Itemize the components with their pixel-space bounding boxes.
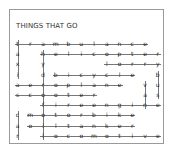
grid-letter: r [90, 91, 98, 99]
grid-letter: o [116, 60, 124, 68]
grid-letter: a [14, 81, 22, 89]
grid-letter: y [90, 71, 98, 79]
grid-letter: m [26, 111, 34, 119]
grid-letter: l [77, 81, 85, 89]
grid-letter: c [128, 40, 136, 48]
grid-letter: e [77, 91, 85, 99]
grid-letter: e [141, 40, 149, 48]
grid-letter: n [103, 81, 111, 89]
grid-letter: v [141, 132, 149, 140]
grid-letter: c [103, 71, 111, 79]
grid-letter: a [90, 81, 98, 89]
grid-letter: i [128, 101, 136, 109]
grid-letter: o [52, 132, 60, 140]
grid-letter: r [14, 132, 22, 140]
grid-letter: a [141, 91, 149, 99]
grid-letter: c [77, 71, 85, 79]
grid-letter: l [103, 60, 111, 68]
grid-letter: x [14, 60, 22, 68]
grid-letter: r [141, 60, 149, 68]
grid-letter: i [14, 71, 22, 79]
grid-letter: o [103, 132, 111, 140]
grid-letter: h [39, 50, 47, 58]
grid-letter: y [39, 60, 47, 68]
grid-letter: e [77, 101, 85, 109]
grid-letter: r [26, 40, 34, 48]
grid-letter: a [39, 40, 47, 48]
grid-letter: r [154, 50, 162, 58]
grid-letter: a [103, 40, 111, 48]
grid-letter: t [65, 91, 73, 99]
grid-letter: s [14, 91, 22, 99]
grid-letter: n [90, 122, 98, 130]
grid-letter: e [141, 50, 149, 58]
grid-letter: b [90, 111, 98, 119]
grid-letter: s [154, 91, 162, 99]
grid-letter: o [39, 91, 47, 99]
grid-letter: t [128, 50, 136, 58]
grid-letter: m [52, 40, 60, 48]
grid-letter: u [77, 40, 85, 48]
grid-letter: e [154, 101, 162, 109]
grid-letter: t [65, 122, 73, 130]
grid-letter: f [39, 101, 47, 109]
grid-letter: e [90, 101, 98, 109]
grid-letter: b [52, 71, 60, 79]
grid-letter: i [52, 101, 60, 109]
grid-letter: t [14, 40, 22, 48]
grid-letter: d [39, 71, 47, 79]
grid-letter: c [14, 111, 22, 119]
grid-letter: e [154, 132, 162, 140]
grid-letter: c [90, 50, 98, 58]
grid-letter: e [116, 81, 124, 89]
grid-letter: l [52, 122, 60, 130]
grid-letter: l [65, 50, 73, 58]
grid-letter: m [90, 132, 98, 140]
grid-letter: g [116, 101, 124, 109]
grid-letter: l [90, 40, 98, 48]
grid-letter: o [26, 122, 34, 130]
grid-letter: n [103, 101, 111, 109]
grid-letter: r [77, 111, 85, 119]
grid-letter: p [116, 50, 124, 58]
grid-letter: i [103, 111, 111, 119]
grid-letter: i [77, 50, 85, 58]
grid-letter: t [116, 132, 124, 140]
grid-letter: o [65, 111, 73, 119]
grid-letter: i [128, 132, 136, 140]
grid-letter: e [26, 81, 34, 89]
grid-letter: r [128, 60, 136, 68]
grid-letter: r [128, 122, 136, 130]
grid-letter: r [65, 101, 73, 109]
grid-letter: n [116, 40, 124, 48]
grid-letter: o [52, 91, 60, 99]
grid-letter: l [116, 71, 124, 79]
grid-letter: e [128, 71, 136, 79]
grid-letter: a [14, 122, 22, 130]
grid-letter: i [39, 122, 47, 130]
grid-letter: c [65, 132, 73, 140]
grid-letter: a [14, 50, 22, 58]
grid-letter: b [65, 40, 73, 48]
grid-letter: r [39, 81, 47, 89]
grid-letter: e [128, 111, 136, 119]
grid-letter: a [77, 122, 85, 130]
grid-letter: e [52, 50, 60, 58]
grid-letter: o [52, 81, 60, 89]
grid-letter: c [26, 91, 34, 99]
grid-letter: i [65, 71, 73, 79]
grid-letter: y [154, 60, 162, 68]
grid-letter: e [116, 122, 124, 130]
grid-letter: k [103, 122, 111, 130]
grid-letter: l [39, 132, 47, 140]
grid-letter: o [39, 111, 47, 119]
grid-letter: b [154, 71, 162, 79]
grid-letter: o [77, 132, 85, 140]
grid-letter: k [116, 111, 124, 119]
grid-letter: t [52, 111, 60, 119]
grid-letter: u [154, 81, 162, 89]
grid-letter: o [103, 50, 111, 58]
grid-letter: p [65, 81, 73, 89]
grid-letter: n [141, 101, 149, 109]
word-search-grid: trambulanceahelicopterxylorryidbicycleba… [0, 0, 177, 151]
